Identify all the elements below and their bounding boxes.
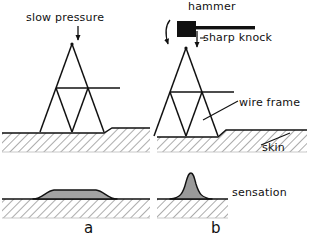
label-slow-pressure: slow pressure xyxy=(26,11,104,24)
label-panel-b: b xyxy=(211,219,221,237)
sensation-profile-b xyxy=(170,173,212,199)
label-panel-a: a xyxy=(84,219,93,237)
label-sharp-knock: sharp knock xyxy=(203,31,272,44)
wire-frame-b xyxy=(154,46,234,136)
label-sensation: sensation xyxy=(232,186,287,199)
hammer-swing-arrow-icon xyxy=(166,20,170,44)
panel-a-group xyxy=(2,26,150,218)
label-wire-frame: wire frame xyxy=(239,96,300,109)
label-skin: skin xyxy=(262,141,285,154)
sensation-profile-a xyxy=(33,190,117,199)
skin-band-a-upper xyxy=(2,128,150,152)
sensation-band-a xyxy=(2,199,150,218)
wire-frame-a xyxy=(40,42,120,132)
label-hammer: hammer xyxy=(188,0,236,13)
sensation-band-b xyxy=(157,199,228,218)
